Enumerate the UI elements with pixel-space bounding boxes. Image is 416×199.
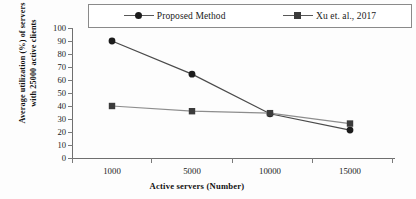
x-tick-label-5000: 5000 [167,166,217,176]
x-tick-2 [232,158,233,163]
y-tick-60 [68,80,73,81]
y-tick-50 [68,93,73,94]
y-tick-30 [68,119,73,120]
y-tick-label-40: 40 [57,101,66,111]
y-axis-title-line-2: with 25000 active clients [28,0,39,143]
legend-label-xu-2017: Xu et. al., 2017 [316,11,376,21]
chart-legend: Proposed Method Xu et. al., 2017 [88,4,412,28]
y-tick-label-100: 100 [53,23,66,33]
x-tick-label-15000: 15000 [325,166,375,176]
y-tick-label-30: 30 [57,114,66,124]
y-tick-80 [68,54,73,55]
data-point-s1-10000 [267,110,274,117]
y-tick-label-80: 80 [57,49,66,59]
series-line-2 [112,106,350,124]
data-point-s1-15000 [347,127,354,134]
series-line-1 [112,41,350,130]
y-tick-40 [68,106,73,107]
legend-marker-circle-icon [124,11,154,21]
y-tick-100 [68,28,73,29]
x-axis-line [72,158,395,159]
x-tick-0 [72,158,73,163]
y-tick-label-70: 70 [57,62,66,72]
legend-marker-square-icon [283,11,313,21]
y-tick-90 [68,41,73,42]
data-point-s2-15000 [347,120,353,126]
x-tick-1 [151,158,152,163]
x-tick-3 [312,158,313,163]
y-axis-title: Average utilization (%) of servers with … [17,0,39,143]
data-point-s1-5000 [189,71,196,78]
y-tick-label-90: 90 [57,36,66,46]
chart-figure: Proposed Method Xu et. al., 2017 Average… [0,0,416,199]
data-point-s2-1000 [109,103,115,109]
x-axis-title: Active servers (Number) [72,181,322,191]
legend-entry-xu-2017: Xu et. al., 2017 [283,11,376,21]
data-point-s1-1000 [109,38,116,45]
y-tick-10 [68,145,73,146]
legend-entry-proposed-method: Proposed Method [124,11,226,21]
y-tick-70 [68,67,73,68]
legend-label-proposed-method: Proposed Method [157,11,226,21]
y-tick-label-10: 10 [57,140,66,150]
y-axis-title-line-1: Average utilization (%) of servers [17,0,28,143]
y-tick-20 [68,132,73,133]
y-tick-label-20: 20 [57,127,66,137]
y-tick-label-50: 50 [57,88,66,98]
data-point-s2-10000 [267,110,273,116]
x-tick-label-1000: 1000 [87,166,137,176]
x-tick-4 [392,158,393,163]
y-tick-label-0: 0 [62,153,66,163]
x-tick-label-10000: 10000 [245,166,295,176]
data-point-s2-5000 [189,108,195,114]
y-tick-label-60: 60 [57,75,66,85]
